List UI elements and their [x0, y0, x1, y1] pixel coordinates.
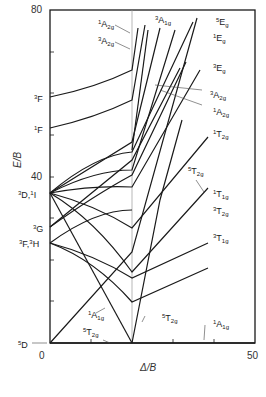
state-1A1g-mid: 1A1g — [88, 309, 104, 323]
term-5D: 5D — [18, 339, 28, 350]
term-3G: 3G — [33, 223, 43, 234]
line-3T1g — [50, 243, 208, 302]
state-3T1g: 3T1g — [213, 232, 229, 246]
state-3A2g: 3A2g — [210, 89, 226, 103]
line-5Eg — [50, 18, 197, 343]
term-3F3H: 3F,3H — [19, 238, 39, 249]
state-3A1g: 3A1g — [155, 14, 171, 28]
state-5T2g-right: 5T2g — [162, 312, 178, 326]
term-3D1I: 3D,1I — [18, 189, 36, 200]
state-1A2g: 1A2g — [213, 106, 229, 120]
line-3A1g — [132, 30, 148, 150]
state-5Eg: 5Eg — [216, 16, 229, 30]
line-5T2g — [132, 120, 182, 343]
term-3F: 3F — [34, 93, 43, 104]
state-3Eg: 3Eg — [213, 62, 226, 76]
line-3D1I-up2 — [50, 30, 175, 193]
y-tick-40: 40 — [31, 171, 42, 182]
state-5T2g-upper: 5T2g — [188, 165, 204, 179]
state-3A2g-top: 3A2g — [98, 35, 114, 49]
state-1A2g-top: 1A2g — [98, 18, 114, 32]
term-1F: 1F — [34, 124, 43, 135]
state-3T2g: 3T2g — [213, 205, 229, 219]
x-axis-title: Δ/B — [140, 362, 156, 373]
x-tick-0: 0 — [39, 350, 45, 361]
line-3F — [50, 28, 138, 97]
line-3T2g — [50, 243, 208, 278]
y-tick-80: 80 — [31, 4, 42, 15]
state-1Eg: 1Eg — [213, 32, 226, 46]
state-1A1g-right: 1A1g — [213, 318, 229, 332]
y-axis-title: E/B — [12, 152, 23, 168]
state-5T2g-low: 5T2g — [83, 326, 99, 340]
x-tick-50: 50 — [247, 350, 258, 361]
line-3A2g — [50, 62, 186, 227]
state-1T1g: 1T1g — [213, 188, 229, 202]
state-1T2g: 1T2g — [213, 128, 229, 142]
